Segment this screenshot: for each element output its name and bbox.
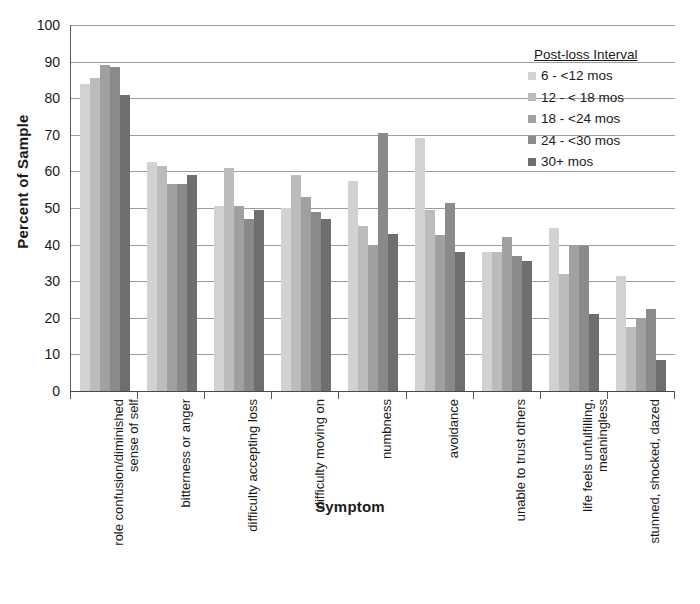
bar	[147, 162, 157, 391]
bar	[646, 309, 656, 391]
bar	[579, 246, 589, 391]
category-axis-ticks	[70, 391, 674, 399]
bar	[388, 234, 398, 391]
legend-swatch	[528, 72, 536, 80]
bar	[224, 168, 234, 391]
y-axis-tick-label: 20	[24, 311, 60, 325]
legend-item: 12 - < 18 mos	[528, 91, 694, 105]
y-axis-tick-label: 80	[24, 91, 60, 105]
bar	[549, 228, 559, 391]
category-axis-label: bitterness or anger	[178, 399, 193, 579]
x-axis-title: Symptom	[0, 498, 700, 515]
y-axis-tick-label: 90	[24, 55, 60, 69]
y-axis-tick-label: 60	[24, 164, 60, 178]
category-axis-label: unable to trust others	[513, 399, 528, 579]
bar	[512, 256, 522, 391]
legend-item: 18 - <24 mos	[528, 112, 694, 126]
bar	[358, 226, 368, 391]
y-axis-tick-label: 10	[24, 347, 60, 361]
bar	[80, 84, 90, 391]
bar	[378, 133, 388, 391]
y-axis-tick-label: 50	[24, 201, 60, 215]
y-axis-tick-label: 0	[24, 384, 60, 398]
bar	[636, 318, 646, 391]
category-axis-tick	[204, 391, 205, 399]
category-axis-tick	[473, 391, 474, 399]
category-axis-label: avoidance	[446, 399, 461, 579]
legend-items: 6 - <12 mos12 - < 18 mos18 - <24 mos24 -…	[528, 69, 694, 169]
legend-item: 6 - <12 mos	[528, 69, 694, 83]
bar	[214, 206, 224, 391]
bar-group	[205, 25, 272, 391]
category-axis-label: life feels unfulfilling, meaningless	[580, 399, 611, 579]
bar	[425, 210, 435, 391]
bar	[502, 237, 512, 391]
bar	[445, 203, 455, 391]
legend-title: Post-loss Interval	[534, 47, 694, 62]
category-axis-tick	[406, 391, 407, 399]
y-axis-tick-label: 70	[24, 128, 60, 142]
y-axis-tick-label: 40	[24, 238, 60, 252]
category-axis-label: difficulty moving on	[312, 399, 327, 579]
bar	[415, 138, 425, 391]
legend-label: 30+ mos	[541, 155, 593, 169]
y-axis-tick-labels: 0102030405060708090100	[24, 25, 60, 391]
category-axis-tick	[674, 391, 675, 399]
bar	[492, 252, 502, 391]
legend-label: 6 - <12 mos	[541, 69, 613, 83]
legend-item: 24 - <30 mos	[528, 134, 694, 148]
bar-group	[272, 25, 339, 391]
category-axis-label: stunned, shocked, dazed	[647, 399, 662, 579]
bar-group	[407, 25, 474, 391]
bar	[177, 184, 187, 391]
category-axis-tick	[540, 391, 541, 399]
bar	[616, 276, 626, 391]
category-axis-label: role confusion/diminished sense of self	[111, 399, 142, 579]
bar	[301, 197, 311, 391]
bar	[254, 210, 264, 391]
legend-item: 30+ mos	[528, 155, 694, 169]
category-axis-tick	[70, 391, 71, 399]
category-axis-label: difficulty accepting loss	[245, 399, 260, 579]
bar	[187, 175, 197, 391]
bar	[120, 95, 130, 391]
bar	[522, 261, 532, 391]
bar	[559, 274, 569, 391]
bar	[110, 67, 120, 391]
legend-label: 24 - <30 mos	[541, 134, 620, 148]
bar	[321, 219, 331, 391]
bar-group	[71, 25, 138, 391]
bar	[244, 219, 254, 391]
bar	[281, 208, 291, 391]
category-axis-tick	[271, 391, 272, 399]
legend-swatch	[528, 115, 536, 123]
bar	[656, 360, 666, 391]
legend-swatch	[528, 136, 536, 144]
legend-swatch	[528, 93, 536, 101]
bar	[311, 212, 321, 391]
legend-label: 18 - <24 mos	[541, 112, 620, 126]
legend-label: 12 - < 18 mos	[541, 91, 624, 105]
legend-swatch	[528, 158, 536, 166]
bar	[569, 246, 579, 391]
y-axis-tick-label: 100	[24, 18, 60, 32]
bar-chart: Percent of Sample 0102030405060708090100…	[0, 0, 700, 604]
category-axis-tick	[137, 391, 138, 399]
bar	[291, 175, 301, 391]
category-axis-tick	[607, 391, 608, 399]
category-axis-label: numbness	[379, 399, 394, 579]
bar	[368, 245, 378, 391]
bar	[626, 327, 636, 391]
bar	[455, 252, 465, 391]
y-axis-tick-label: 30	[24, 274, 60, 288]
category-axis-tick	[338, 391, 339, 399]
bar-group	[339, 25, 406, 391]
bar	[482, 252, 492, 391]
bar	[234, 206, 244, 391]
bar	[435, 235, 445, 391]
bar	[167, 184, 177, 391]
bar	[100, 65, 110, 391]
bar	[348, 181, 358, 391]
bar-group	[138, 25, 205, 391]
bar	[90, 78, 100, 391]
